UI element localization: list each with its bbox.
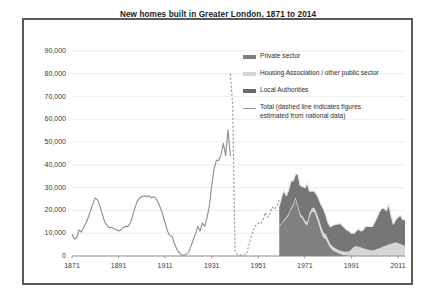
y-axis-tick-label: 0 — [20, 252, 66, 259]
legend-item[interactable]: Local Authorities — [243, 86, 413, 95]
legend-swatch-icon — [243, 55, 256, 59]
axis-lines — [72, 256, 405, 259]
x-axis-tick-label: 1971 — [285, 262, 325, 269]
y-axis-tick-label: 20,000 — [20, 206, 66, 213]
legend-item[interactable]: Total (dashed line indicates figures est… — [243, 103, 413, 120]
total-line-solid — [72, 130, 230, 256]
x-axis-tick-label: 1931 — [192, 262, 232, 269]
legend-swatch-icon — [243, 89, 256, 93]
legend-line-marker — [243, 108, 256, 109]
x-axis-tick-label: 1871 — [52, 262, 92, 269]
legend-item-label: Housing Association / other public secto… — [260, 69, 379, 78]
legend-item[interactable]: Private sector — [243, 52, 413, 61]
legend-swatch-icon — [243, 72, 256, 76]
stacked-areas — [279, 174, 405, 256]
chart-figure: New homes built in Greater London, 1871 … — [0, 0, 436, 303]
y-axis-tick-label: 70,000 — [20, 93, 66, 100]
y-axis-tick-label: 80,000 — [20, 70, 66, 77]
y-axis-tick-label: 90,000 — [20, 47, 66, 54]
legend-item-label: Local Authorities — [260, 86, 308, 95]
chart-legend: Private sectorHousing Association / othe… — [243, 52, 413, 129]
x-axis-tick-label: 1891 — [99, 262, 139, 269]
y-axis-tick-label: 60,000 — [20, 115, 66, 122]
legend-item-label: Private sector — [260, 52, 300, 61]
y-axis-tick-label: 40,000 — [20, 161, 66, 168]
x-axis-tick-label: 2011 — [378, 262, 418, 269]
x-axis-tick-label: 1911 — [145, 262, 185, 269]
legend-item-label: Total (dashed line indicates figures est… — [260, 103, 384, 120]
legend-item[interactable]: Housing Association / other public secto… — [243, 69, 413, 78]
x-axis-tick-label: 1991 — [331, 262, 371, 269]
y-axis-tick-label: 50,000 — [20, 138, 66, 145]
y-axis-tick-label: 10,000 — [20, 229, 66, 236]
x-axis-tick-label: 1951 — [238, 262, 278, 269]
y-axis-tick-label: 30,000 — [20, 184, 66, 191]
